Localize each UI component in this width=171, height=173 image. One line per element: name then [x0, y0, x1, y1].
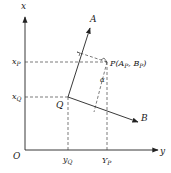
angle-alpha-label: α — [100, 76, 105, 84]
coordinate-diagram: x y O A B Q P(AP, BP) α xP xQ yQ YP — [0, 0, 171, 173]
point-Q-label: Q — [56, 100, 64, 110]
origin-label: O — [13, 151, 21, 161]
xQ-tick-label: xQ — [12, 92, 22, 102]
projection-lines — [25, 52, 107, 150]
rotated-axes — [68, 28, 138, 122]
axis-B-label: B — [140, 113, 148, 123]
YP-tick-label: YP — [102, 156, 112, 166]
point-P-label: P(AP, BP) — [109, 59, 146, 69]
axis-A-label: A — [89, 14, 97, 24]
perp-to-B — [94, 62, 107, 112]
axis-A — [68, 28, 90, 97]
y-axis-label: y — [159, 146, 166, 156]
x-axis-label: x — [21, 1, 26, 11]
axis-B — [68, 97, 138, 122]
yQ-tick-label: yQ — [62, 155, 73, 165]
right-angle-A — [77, 52, 80, 56]
xP-tick-label: xP — [12, 57, 22, 67]
main-axes — [25, 17, 158, 150]
